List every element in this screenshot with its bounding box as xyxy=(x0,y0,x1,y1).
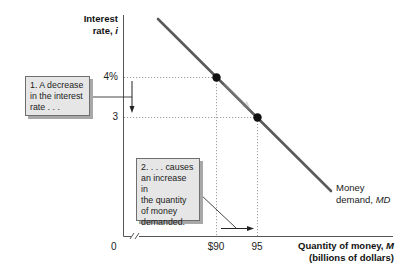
x-axis-variable: M xyxy=(386,240,394,251)
annotation-2-line: demanded. xyxy=(141,217,195,228)
curve-label-line1: Money xyxy=(336,182,390,194)
curve-label-money-demand: Money demand, MD xyxy=(336,182,390,206)
point-90-4pct xyxy=(212,73,220,81)
annotation-1-line: 1. A decrease xyxy=(30,80,85,91)
movement-arrow-along-curve xyxy=(224,84,251,111)
curve-label-line2: demand, xyxy=(336,194,376,205)
x-axis-label: Quantity of money, M (billions of dollar… xyxy=(298,240,394,264)
annotation-2-line: of money xyxy=(141,206,195,217)
annotation-1-line: in the interest xyxy=(30,91,85,102)
annotation-box-1: 1. A decrease in the interest rate . . . xyxy=(25,76,90,116)
x-tick-95: 95 xyxy=(246,241,268,252)
y-axis-label-line2: rate, xyxy=(93,25,116,36)
axis-break-icon xyxy=(130,233,139,239)
curve-label-variable: MD xyxy=(376,194,391,205)
y-axis-label: Interest rate, i xyxy=(62,13,118,37)
annotation-2-line: 2. . . . causes xyxy=(141,162,195,173)
x-tick-0: 0 xyxy=(111,241,117,252)
y-axis-label-line1: Interest xyxy=(62,13,118,25)
annotation-box-2: 2. . . . causes an increase in the quant… xyxy=(136,158,200,221)
annotation-1-line: rate . . . xyxy=(30,102,85,113)
y-axis-variable: i xyxy=(115,25,118,36)
arrow-right-icon xyxy=(221,226,254,231)
y-tick-3: 3 xyxy=(100,111,118,122)
x-tick-90: $90 xyxy=(201,241,231,252)
chart-canvas xyxy=(0,0,414,280)
annotation-2-line: the quantity xyxy=(141,195,195,206)
annotation-2-leader xyxy=(200,194,236,228)
x-axis-label-line1: Quantity of money, xyxy=(298,240,386,251)
point-95-3pct xyxy=(253,113,261,121)
annotation-2-line: an increase in xyxy=(141,173,195,195)
x-axis-label-line2: (billions of dollars) xyxy=(298,252,394,264)
y-tick-4pct: 4% xyxy=(100,71,118,82)
